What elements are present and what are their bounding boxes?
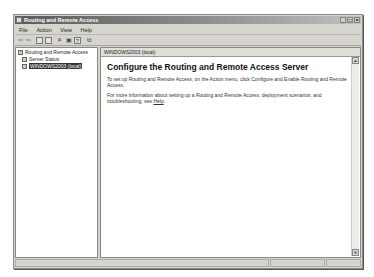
menu-file[interactable]: File [19, 27, 28, 33]
help-icon[interactable]: ? [74, 37, 81, 44]
configure-heading: Configure the Routing and Remote Access … [107, 62, 348, 72]
vertical-scrollbar[interactable]: ▲ ▼ [351, 57, 359, 256]
app-icon [16, 17, 22, 23]
details-header: WINDOWS2003 (local) [101, 48, 360, 57]
menu-view[interactable]: View [60, 27, 72, 33]
server-icon [22, 64, 27, 69]
title-bar[interactable]: Routing and Remote Access _ □ × [15, 16, 361, 24]
export-icon[interactable]: ⧉ [85, 37, 92, 44]
tree-item-server[interactable]: WINDOWS2003 (local) [22, 63, 82, 70]
show-hide-tree-icon[interactable] [45, 37, 52, 44]
status-bar [15, 259, 361, 267]
menu-action[interactable]: Action [36, 27, 51, 33]
console-tree: Routing and Remote Access Server Status … [15, 47, 98, 258]
back-button[interactable]: ⇦ [17, 37, 24, 44]
scroll-down-button[interactable]: ▼ [352, 249, 359, 256]
window-title: Routing and Remote Access [24, 16, 98, 24]
status-panel-3 [326, 259, 361, 267]
setup-instructions: To set up Routing and Remote Access, on … [107, 76, 348, 88]
forward-button[interactable]: ⇨ [25, 37, 32, 44]
status-panel-main [15, 259, 269, 267]
tree-item-server-status[interactable]: Server Status [22, 56, 59, 63]
more-info-text: For more information about setting up a … [107, 92, 348, 104]
status-panel-2 [270, 259, 325, 267]
properties-icon[interactable]: ▣ [65, 37, 72, 44]
up-icon[interactable] [36, 37, 43, 44]
tree-root[interactable]: Routing and Remote Access [18, 49, 88, 56]
minimize-button[interactable]: _ [340, 17, 346, 23]
rras-icon [18, 50, 23, 55]
menu-help[interactable]: Help [81, 27, 92, 33]
details-pane: WINDOWS2003 (local) Configure the Routin… [100, 47, 361, 258]
server-status-icon [22, 57, 27, 62]
scroll-up-button[interactable]: ▲ [352, 57, 359, 64]
menu-bar: File Action View Help [15, 26, 361, 35]
close-button[interactable]: × [354, 17, 360, 23]
help-link[interactable]: Help [153, 98, 163, 104]
details-content: Configure the Routing and Remote Access … [107, 62, 348, 108]
delete-icon[interactable]: ✕ [56, 37, 63, 44]
maximize-button[interactable]: □ [347, 17, 353, 23]
app-window: Routing and Remote Access _ □ × File Act… [13, 14, 363, 269]
toolbar: ⇦ ⇨ ✕ ▣ ? ⧉ [15, 35, 361, 46]
